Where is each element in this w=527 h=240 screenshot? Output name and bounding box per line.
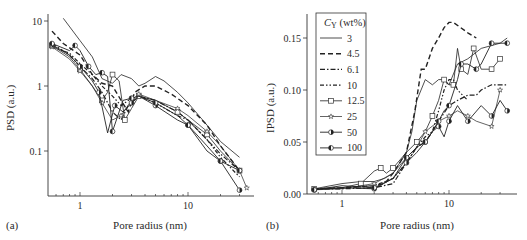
y-tick-label: 0.1 <box>30 146 43 157</box>
series-line <box>52 44 240 171</box>
legend-entry-label: 6.1 <box>347 64 360 75</box>
panel-b-label: (b) <box>266 219 279 232</box>
x-tick-label: 10 <box>183 200 193 211</box>
panel-b-y-axis-label: IPSD (a.u.) <box>264 83 277 133</box>
legend-box <box>316 13 366 155</box>
legend-entry-label: 10 <box>347 80 357 91</box>
series-line <box>52 44 240 171</box>
y-tick-label: 1 <box>37 81 42 92</box>
star-marker <box>489 124 494 129</box>
x-tick-label: 1 <box>340 198 345 209</box>
square-marker <box>378 166 383 171</box>
square-marker <box>391 166 396 171</box>
square-marker <box>122 118 127 123</box>
panel-a-label: (a) <box>6 219 19 232</box>
figure: 1010.1110 PSD (a.u.) Pore radius (nm) (a… <box>0 0 527 240</box>
panel-b-x-axis-label: Pore radius (nm) <box>380 219 454 232</box>
series-50 <box>50 42 242 192</box>
star-marker <box>244 185 249 190</box>
series-12-5 <box>50 43 242 173</box>
panel-a-y-axis-label: PSD (a.u.) <box>4 85 17 131</box>
panel-a-psd-chart: 1010.1110 PSD (a.u.) Pore radius (nm) (a… <box>4 14 254 232</box>
legend-entry-label: 100 <box>347 142 362 153</box>
square-marker <box>471 46 476 51</box>
square-marker <box>489 67 494 72</box>
legend-entry-label: 25 <box>347 111 357 122</box>
square-marker <box>110 72 115 77</box>
legend-entry-label: 12.5 <box>347 95 365 106</box>
x-tick-label: 10 <box>444 198 454 209</box>
series-4-5 <box>52 31 240 171</box>
legend: CY (wt%) 34.56.11012.52550100 <box>316 13 366 155</box>
x-tick-label: 1 <box>78 200 83 211</box>
legend-entry-label: 50 <box>347 127 357 138</box>
panel-a-plot-area <box>49 18 249 192</box>
series-3 <box>63 18 239 157</box>
series-line <box>52 31 240 171</box>
legend-entry-label: 4.5 <box>347 48 360 59</box>
series-line <box>63 18 239 157</box>
legend-title-unit: (wt%) <box>337 17 366 29</box>
square-marker <box>498 56 503 61</box>
y-tick-label: 0.10 <box>284 85 302 96</box>
square-marker <box>442 77 447 82</box>
square-marker <box>329 98 334 103</box>
y-tick-label: 0.05 <box>284 137 302 148</box>
y-tick-label: 10 <box>32 16 42 27</box>
y-tick-label: 0.00 <box>284 189 302 200</box>
star-marker <box>498 87 503 92</box>
star-marker <box>423 129 428 134</box>
legend-entry-label: 3 <box>347 33 352 44</box>
square-marker <box>430 114 435 119</box>
series-6-1 <box>52 44 240 171</box>
panel-b-ipsd-chart: 0.150.100.050.00110 IPSD (a.u.) Pore rad… <box>264 13 517 232</box>
panel-a-x-axis-label: Pore radius (nm) <box>113 219 187 232</box>
y-tick-label: 0.15 <box>284 33 302 44</box>
